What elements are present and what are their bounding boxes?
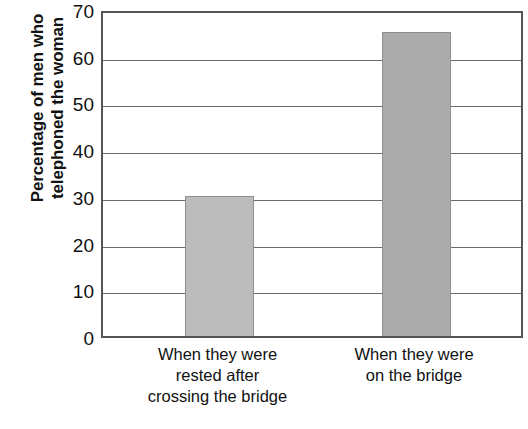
gridline (103, 247, 521, 248)
gridline (103, 60, 521, 61)
x-axis-tick-labels: When they wererested aftercrossing the b… (101, 344, 523, 424)
y-tick-label: 0 (54, 329, 94, 348)
x-tick-label: When they wererested aftercrossing the b… (108, 344, 328, 407)
bar-chart-figure: Percentage of men who telephoned the wom… (0, 0, 528, 429)
x-tick-label-line: When they were (304, 344, 524, 365)
gridline (103, 200, 521, 201)
bar (185, 196, 254, 336)
x-tick-label: When they wereon the bridge (304, 344, 524, 386)
y-tick-label: 70 (54, 2, 94, 21)
bar (382, 32, 451, 336)
x-tick-label-line: rested after (108, 365, 328, 386)
y-axis-tick-labels: 010203040506070 (52, 0, 94, 429)
gridline (103, 153, 521, 154)
x-tick-label-line: crossing the bridge (108, 386, 328, 407)
y-tick-label: 30 (54, 188, 94, 207)
x-tick-label-line: on the bridge (304, 365, 524, 386)
y-tick-label: 20 (54, 235, 94, 254)
y-tick-label: 60 (54, 48, 94, 67)
y-tick-label: 50 (54, 95, 94, 114)
y-tick-label: 10 (54, 282, 94, 301)
x-tick-label-line: When they were (108, 344, 328, 365)
gridline (103, 293, 521, 294)
y-axis-title-line-1: Percentage of men who (28, 14, 48, 203)
plot-area (101, 11, 523, 338)
y-tick-label: 40 (54, 142, 94, 161)
gridline (103, 106, 521, 107)
